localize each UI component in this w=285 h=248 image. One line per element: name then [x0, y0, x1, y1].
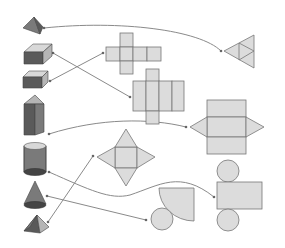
solid-tri-prism-icon — [24, 95, 44, 135]
solid-square-pyramid-icon — [24, 215, 49, 233]
net-cube-icon — [106, 33, 161, 74]
net-cone-icon — [151, 188, 194, 230]
connector-tri-prism — [49, 121, 186, 134]
connector-cone — [47, 196, 146, 220]
net-cylinder-icon — [217, 160, 262, 231]
net-rect-prism-icon — [133, 69, 184, 124]
solid-cone-icon — [24, 181, 46, 209]
solids-nets-diagram — [0, 0, 285, 248]
solid-rect-prism-icon — [24, 44, 52, 64]
solid-tetrahedron-icon — [23, 17, 43, 34]
net-tri-prism-icon — [190, 100, 264, 154]
solid-cube-icon — [23, 71, 48, 88]
net-square-pyramid-icon — [97, 129, 155, 186]
solid-cylinder-icon — [24, 143, 46, 176]
connector-square-pyramid — [48, 156, 93, 222]
net-tetrahedron-icon — [224, 35, 254, 68]
